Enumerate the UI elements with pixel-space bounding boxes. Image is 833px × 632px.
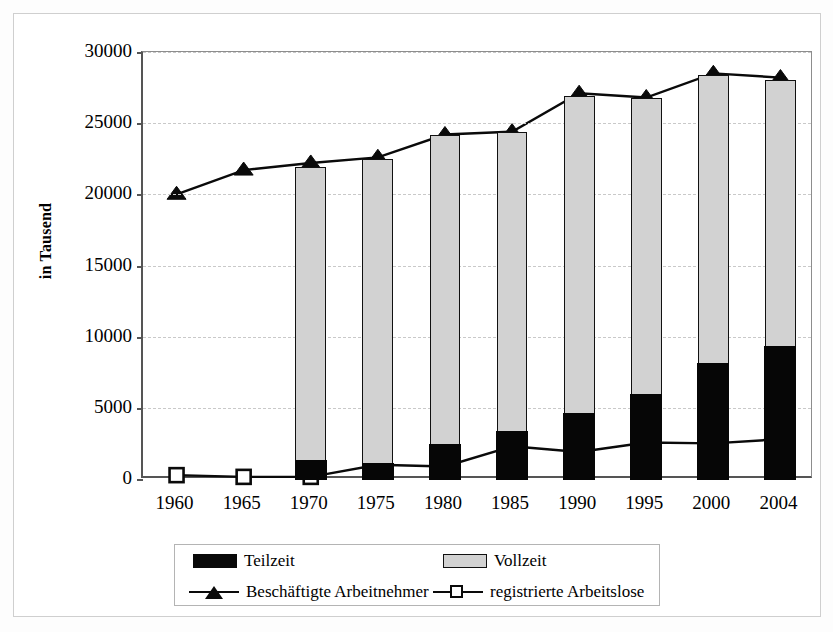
bar-segment-teilzeit[interactable] [295,460,327,480]
x-axis-tick-labels: 1960196519701975198019851990199520002004 [141,492,812,522]
stacked-bar[interactable] [765,80,796,479]
black-fill-swatch-icon [193,554,237,568]
bar-segment-teilzeit[interactable] [563,413,595,480]
legend-item-teilzeit[interactable]: Teilzeit [193,545,295,576]
plot-area [141,51,812,478]
chart-figure: in Tausend 05000100001500020000250003000… [0,0,833,632]
x-axis-tick-label: 1970 [274,492,344,514]
square-marker-icon [170,468,184,482]
line-arbeitslose [177,439,781,477]
legend-row-1: Teilzeit Vollzeit [175,545,659,576]
y-axis-tickmark [137,266,143,268]
y-axis-tick-label: 15000 [50,255,132,274]
stacked-bar[interactable] [295,167,326,479]
legend-label: Vollzeit [494,551,547,570]
x-axis-tick-label: 2004 [743,492,813,514]
legend-item-registrierte-arbeitslose[interactable]: registrierte Arbeitslose [433,576,644,607]
x-axis-tick-label: 1965 [207,492,277,514]
stacked-bar[interactable] [698,75,729,479]
y-axis-tick-label: 5000 [50,397,132,416]
square-marker-icon [237,470,251,484]
x-axis-tick-label: 1975 [341,492,411,514]
y-axis-tick-labels: 050001000015000200002500030000 [50,0,132,632]
stacked-bar[interactable] [362,159,393,479]
line-beschaeftigte [177,73,781,194]
triangle-line-marker-icon [189,584,239,600]
bar-segment-teilzeit[interactable] [697,363,729,480]
bar-segment-teilzeit[interactable] [362,463,394,480]
x-axis-tick-label: 1985 [475,492,545,514]
y-axis-tickmark [137,123,143,125]
x-axis-tick-label: 1995 [609,492,679,514]
x-axis-tick-label: 2000 [676,492,746,514]
x-axis-tick-label: 1990 [542,492,612,514]
plot-wrapper: in Tausend 05000100001500020000250003000… [0,0,833,632]
legend-label: Teilzeit [244,551,295,570]
stacked-bar[interactable] [564,96,595,479]
y-axis-tickmark [137,52,143,54]
gray-fill-swatch-icon [443,554,487,568]
y-axis-tick-label: 10000 [50,326,132,345]
y-axis-tickmark [137,408,143,410]
stacked-bar[interactable] [497,132,528,479]
legend-row-2: Beschäftigte Arbeitnehmer registrierte A… [175,576,659,607]
y-axis-tickmark [137,337,143,339]
y-axis-tick-label: 0 [50,468,132,487]
bar-segment-teilzeit[interactable] [630,394,662,479]
bar-segment-teilzeit[interactable] [496,431,528,479]
y-axis-tickmark [137,479,143,481]
y-axis-tick-label: 20000 [50,183,132,202]
gridline [143,52,811,53]
chart-legend: Teilzeit Vollzeit Beschäftigte Arbeitneh… [174,544,660,606]
stacked-bar[interactable] [430,135,461,479]
bar-segment-teilzeit[interactable] [764,346,796,480]
x-axis-tick-label: 1980 [408,492,478,514]
y-axis-tickmark [137,194,143,196]
y-axis-tick-label: 25000 [50,112,132,131]
legend-label: registrierte Arbeitslose [490,582,644,601]
stacked-bar[interactable] [631,98,662,479]
y-axis-tick-label: 30000 [50,41,132,60]
bar-segment-teilzeit[interactable] [429,444,461,480]
square-line-marker-icon [433,584,483,600]
x-axis-tick-label: 1960 [140,492,210,514]
legend-item-vollzeit[interactable]: Vollzeit [443,545,547,576]
legend-item-beschaeftigte-arbeitnehmer[interactable]: Beschäftigte Arbeitnehmer [189,576,429,607]
legend-label: Beschäftigte Arbeitnehmer [246,582,429,601]
